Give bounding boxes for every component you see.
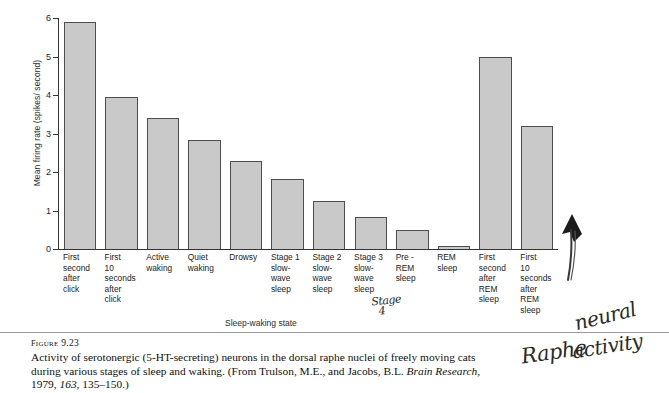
- y-tick-mark: [53, 249, 59, 250]
- bar-slot: [184, 18, 226, 249]
- bar-slot: [516, 18, 558, 249]
- x-category-label: First second after click: [59, 252, 101, 316]
- bar: [521, 126, 553, 249]
- figure-number-label: FIGURE 9.23: [31, 336, 481, 348]
- caption-divider: [0, 332, 669, 333]
- bar-slot: [433, 18, 475, 249]
- bar-slot: [350, 18, 392, 249]
- bar: [64, 22, 96, 249]
- x-category-label: Pre - REM sleep: [392, 252, 434, 316]
- bar: [147, 118, 179, 249]
- bar: [396, 230, 428, 249]
- y-tick-label: 2: [36, 172, 51, 173]
- caption-volume-number: 163: [59, 378, 76, 390]
- y-tick-label: 4: [36, 95, 51, 96]
- caption-segment-2: 1979,: [31, 378, 59, 390]
- x-axis-line: [58, 249, 558, 250]
- bar-slot: [101, 18, 143, 249]
- x-category-label: Quiet waking: [184, 252, 226, 316]
- bar-slot: [475, 18, 517, 249]
- bar-slot: [59, 18, 101, 249]
- bar: [105, 97, 137, 249]
- y-tick-label: 6: [36, 18, 51, 19]
- x-axis-category-labels: First second after clickFirst 10 seconds…: [59, 252, 558, 316]
- x-category-label: REM sleep: [433, 252, 475, 316]
- figure-chart-area: Mean firing rate (spikes/ second) 012345…: [0, 0, 669, 330]
- bar: [438, 246, 470, 249]
- y-tick-label: 1: [36, 211, 51, 212]
- x-category-label: Stage 3 slow- wave sleep: [350, 252, 392, 316]
- figure-caption-text: Activity of serotonergic (5-HT-secreting…: [31, 351, 481, 392]
- bar: [188, 140, 220, 249]
- x-category-label: Drowsy: [225, 252, 267, 316]
- plot-area: 0123456: [58, 18, 558, 250]
- bar: [355, 217, 387, 249]
- handwritten-activity-annotation: activity: [571, 329, 644, 364]
- y-axis-title: Mean firing rate (spikes/ second): [32, 23, 42, 223]
- handwritten-raphe-annotation: Raphe: [520, 336, 588, 369]
- figure-caption-block: FIGURE 9.23 Activity of serotonergic (5-…: [31, 336, 481, 392]
- handwritten-arrow-icon: [556, 212, 596, 282]
- y-tick-label: 0: [36, 249, 51, 250]
- bar-slot: [142, 18, 184, 249]
- y-tick-label: 3: [36, 134, 51, 135]
- x-category-label: First 10 seconds after click: [101, 252, 143, 316]
- bar-slot: [308, 18, 350, 249]
- x-category-label: Stage 1 slow- wave sleep: [267, 252, 309, 316]
- x-category-label: Active waking: [142, 252, 184, 316]
- x-axis-title: Sleep-waking state: [225, 318, 297, 328]
- bar-series: [59, 18, 558, 249]
- bar: [479, 57, 511, 250]
- bar-slot: [225, 18, 267, 249]
- caption-segment-3: , 135–150.): [77, 378, 129, 390]
- bar: [271, 179, 303, 249]
- x-category-label: First second after REM sleep: [475, 252, 517, 316]
- bar-slot: [392, 18, 434, 249]
- x-category-label: First 10 seconds after REM sleep: [516, 252, 558, 316]
- bar: [313, 201, 345, 249]
- x-category-label: Stage 2 slow- wave sleep: [308, 252, 350, 316]
- y-tick-label: 5: [36, 57, 51, 58]
- caption-journal-name: Brain Research,: [407, 365, 481, 377]
- bar: [230, 161, 262, 249]
- bar-slot: [267, 18, 309, 249]
